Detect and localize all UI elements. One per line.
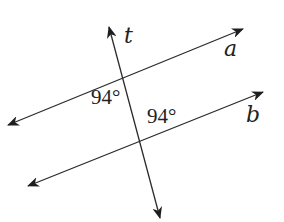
line-b <box>28 92 263 186</box>
transversal-diagram: t a b 94° 94° <box>0 0 284 222</box>
label-b: b <box>246 102 260 127</box>
angle-label-upper: 94° <box>91 85 120 109</box>
label-a: a <box>224 36 237 61</box>
angle-label-lower: 94° <box>147 104 176 128</box>
label-t: t <box>124 23 133 48</box>
